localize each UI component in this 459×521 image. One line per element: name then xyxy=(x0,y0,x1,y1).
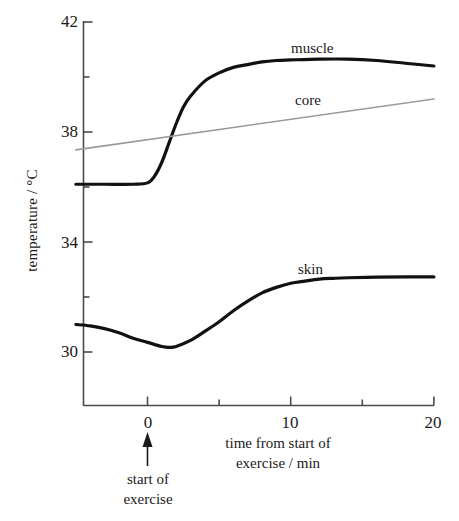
temperature-vs-time-chart: temperature / °C 42 38 34 30 0 10 20 mus… xyxy=(0,0,459,521)
x-tick-label-0: 0 xyxy=(128,414,168,431)
start-of-exercise-arrow xyxy=(143,432,153,466)
series-line-core xyxy=(76,99,434,150)
annotation-line1: start of xyxy=(88,469,208,489)
y-axis-title: temperature / °C xyxy=(24,126,41,316)
y-axis-ticks xyxy=(84,22,93,352)
data-series-group xyxy=(76,59,434,347)
annotation-line2: exercise xyxy=(88,489,208,509)
y-tick-label-30: 30 xyxy=(36,343,78,360)
x-axis-title: time from start of exercise / min xyxy=(163,433,393,473)
y-tick-label-38: 38 xyxy=(36,123,78,140)
series-label-muscle: muscle xyxy=(291,41,334,56)
series-label-core: core xyxy=(295,93,321,108)
series-line-skin xyxy=(76,277,434,347)
x-axis-ticks xyxy=(148,397,434,406)
x-axis-title-line1: time from start of xyxy=(163,433,393,453)
x-tick-label-20: 20 xyxy=(413,414,453,431)
series-line-muscle xyxy=(76,59,434,184)
start-of-exercise-caption: start of exercise xyxy=(88,469,208,509)
y-tick-label-42: 42 xyxy=(36,13,78,30)
x-tick-label-10: 10 xyxy=(270,414,310,431)
series-label-skin: skin xyxy=(298,262,323,277)
y-tick-label-34: 34 xyxy=(36,234,78,251)
